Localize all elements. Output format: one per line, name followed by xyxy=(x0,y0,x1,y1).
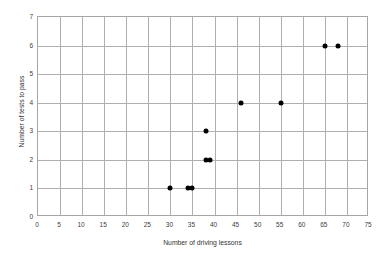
gridline-horizontal xyxy=(38,46,367,47)
gridline-vertical xyxy=(237,17,238,215)
data-point xyxy=(336,43,341,48)
y-tick-label: 1 xyxy=(20,183,33,192)
gridline-vertical xyxy=(126,17,127,215)
gridline-vertical xyxy=(60,17,61,215)
gridline-vertical xyxy=(347,17,348,215)
x-tick-label: 65 xyxy=(314,220,334,229)
y-tick-label: 7 xyxy=(20,12,33,21)
x-tick-label: 5 xyxy=(49,220,69,229)
scatter-chart: 051015202530354045505560657075 01234567 … xyxy=(0,0,392,265)
gridline-horizontal xyxy=(38,188,367,189)
x-tick-label: 15 xyxy=(93,220,113,229)
x-tick-label: 70 xyxy=(336,220,356,229)
x-axis-title: Number of driving lessons xyxy=(37,239,368,246)
data-point xyxy=(208,157,213,162)
data-point xyxy=(190,186,195,191)
x-tick-label: 45 xyxy=(226,220,246,229)
data-point xyxy=(203,129,208,134)
gridline-horizontal xyxy=(38,74,367,75)
gridline-vertical xyxy=(148,17,149,215)
gridline-vertical xyxy=(82,17,83,215)
y-tick-label: 0 xyxy=(20,212,33,221)
y-axis-title: Number of tests to pass xyxy=(18,47,25,177)
x-tick-label: 35 xyxy=(181,220,201,229)
gridline-vertical xyxy=(303,17,304,215)
data-point xyxy=(322,43,327,48)
data-point xyxy=(168,186,173,191)
data-point xyxy=(278,100,283,105)
x-tick-label: 0 xyxy=(27,220,47,229)
x-tick-label: 40 xyxy=(204,220,224,229)
x-tick-label: 60 xyxy=(292,220,312,229)
x-tick-label: 25 xyxy=(137,220,157,229)
gridline-horizontal xyxy=(38,103,367,104)
gridline-vertical xyxy=(259,17,260,215)
x-tick-label: 75 xyxy=(358,220,378,229)
x-tick-label: 10 xyxy=(71,220,91,229)
gridline-vertical xyxy=(281,17,282,215)
x-tick-label: 30 xyxy=(159,220,179,229)
data-point xyxy=(239,100,244,105)
gridline-vertical xyxy=(104,17,105,215)
plot-area xyxy=(37,16,368,216)
x-tick-label: 50 xyxy=(248,220,268,229)
x-tick-label: 55 xyxy=(270,220,290,229)
gridline-vertical xyxy=(215,17,216,215)
x-tick-label: 20 xyxy=(115,220,135,229)
